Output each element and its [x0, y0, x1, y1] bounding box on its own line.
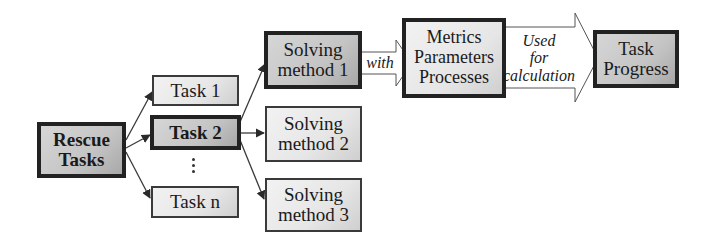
task-n-label: Task n	[170, 192, 220, 212]
rescue-tasks-line-2: Tasks	[59, 150, 105, 170]
rescue-tasks-line-1: Rescue	[53, 130, 110, 150]
calc-line-3: calculation	[503, 67, 575, 85]
arrow-root-to-taskn	[126, 152, 150, 198]
task-n-box: Task n	[151, 186, 239, 218]
processes-line: Processes	[419, 68, 489, 88]
metrics-parameters-processes-box: Metrics Parameters Processes	[402, 18, 506, 98]
task-2-box: Task 2	[150, 115, 241, 150]
metrics-line: Metrics	[427, 28, 482, 48]
arrow-root-to-task1	[126, 92, 152, 140]
with-label: with	[362, 52, 398, 74]
method-3-line-1: Solving	[284, 185, 343, 205]
task-progress-line-1: Task	[618, 39, 654, 59]
task-progress-box: Task Progress	[593, 30, 679, 88]
method-2-line-2: method 2	[278, 134, 349, 154]
ellipsis-vertical	[192, 158, 196, 173]
arrow-task2-to-method1	[240, 64, 265, 122]
solving-method-2-box: Solving method 2	[265, 106, 362, 162]
rescue-tasks-box: Rescue Tasks	[37, 122, 126, 178]
task-1-label: Task 1	[171, 81, 221, 101]
solving-method-1-box: Solving method 1	[264, 31, 362, 89]
solving-method-3-box: Solving method 3	[265, 178, 362, 232]
method-2-line-1: Solving	[284, 114, 343, 134]
calc-line-2: for	[530, 49, 549, 67]
task-progress-line-2: Progress	[603, 59, 668, 79]
arrow-task2-to-method3	[240, 140, 264, 199]
task-2-label: Task 2	[169, 123, 222, 143]
diagram-canvas: Rescue Tasks Task 1 Task 2 Task n Solvin…	[0, 0, 712, 247]
with-text: with	[366, 54, 394, 72]
method-1-line-2: method 1	[277, 60, 348, 80]
task-1-box: Task 1	[152, 75, 239, 106]
calc-line-1: Used	[523, 32, 556, 50]
method-1-line-1: Solving	[283, 40, 342, 60]
method-3-line-2: method 3	[278, 205, 349, 225]
parameters-line: Parameters	[414, 48, 494, 68]
arrow-root-to-task2	[126, 135, 150, 148]
used-for-calculation-label: Used for calculation	[497, 30, 581, 86]
